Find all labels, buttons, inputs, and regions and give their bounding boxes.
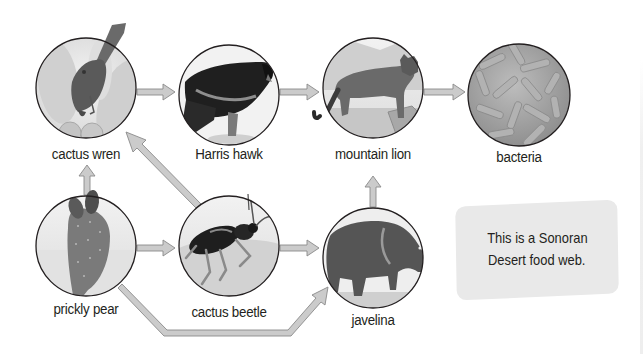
label-cactus-wren: cactus wren xyxy=(46,145,125,163)
arrow-wren-to-hawk xyxy=(137,84,175,100)
node-prickly-pear xyxy=(36,189,136,300)
arrow-lion-to-bacteria xyxy=(424,84,465,100)
arrow-beetle-to-wren xyxy=(126,132,201,208)
node-cactus-beetle xyxy=(179,194,279,300)
info-box-text: This is a Sonoran Desert food web. xyxy=(456,227,618,271)
node-javelina xyxy=(323,208,428,308)
node-cactus-wren xyxy=(32,23,153,146)
label-prickly-pear: prickly pear xyxy=(48,300,124,318)
arrow-javelina-to-lion xyxy=(365,176,381,207)
label-cactus-beetle: cactus beetle xyxy=(185,303,272,321)
label-mountain-lion: mountain lion xyxy=(329,145,417,163)
arrow-beetle-to-javelina xyxy=(280,240,319,256)
arrow-hawk-to-lion xyxy=(280,84,319,100)
info-line-2: Desert food web. xyxy=(456,249,618,271)
label-bacteria: bacteria xyxy=(493,148,546,166)
node-mountain-lion xyxy=(314,38,425,138)
node-bacteria xyxy=(468,40,570,147)
info-line-1: This is a Sonoran xyxy=(456,227,618,249)
label-javelina: javelina xyxy=(348,311,398,329)
node-harris-hawk xyxy=(179,45,279,145)
arrow-pear-to-beetle xyxy=(137,240,175,256)
mountain-lion-illustration xyxy=(320,42,425,138)
label-harris-hawk: Harris hawk xyxy=(190,145,269,163)
